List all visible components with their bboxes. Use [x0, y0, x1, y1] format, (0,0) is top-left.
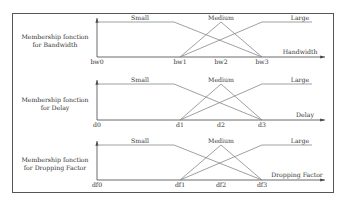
set-label-large: Large — [280, 137, 320, 145]
tick-3: d3 — [252, 121, 272, 129]
title-line-2: for Bandwidth — [15, 41, 95, 49]
set-label-small: Small — [120, 14, 160, 22]
panel-title-bandwidth: Membership fonction for Bandwidth — [15, 33, 95, 49]
tick-2: bw2 — [211, 58, 231, 66]
panel-title-delay: Membership fonction for Delay — [15, 96, 95, 112]
title-line-2: for Delay — [15, 104, 95, 112]
set-label-small: Small — [120, 76, 160, 84]
panel-title-dropping-factor: Membership fonction for Dropping Factor — [15, 156, 95, 172]
small-curve — [97, 22, 262, 57]
tick-1: df1 — [170, 181, 190, 189]
title-line-2: for Dropping Factor — [15, 164, 95, 172]
tick-0: d0 — [87, 121, 107, 129]
tick-2: df2 — [211, 181, 231, 189]
tick-2: d2 — [211, 121, 231, 129]
set-label-medium: Medium — [201, 137, 241, 145]
title-line-1: Membership fonction — [15, 156, 95, 164]
small-curve — [97, 84, 262, 120]
tick-3: bw3 — [252, 58, 272, 66]
set-label-large: Large — [280, 76, 320, 84]
tick-0: bw0 — [87, 58, 107, 66]
title-line-1: Membership fonction — [15, 33, 95, 41]
set-label-large: Large — [280, 14, 320, 22]
set-label-medium: Medium — [201, 14, 241, 22]
tick-1: d1 — [170, 121, 190, 129]
set-label-medium: Medium — [201, 76, 241, 84]
axis-label: Dropping Factor — [262, 171, 332, 179]
tick-1: bw1 — [170, 58, 190, 66]
tick-3: df3 — [252, 181, 272, 189]
title-line-1: Membership fonction — [15, 96, 95, 104]
axis-label: Delay — [280, 111, 330, 119]
tick-0: df0 — [87, 181, 107, 189]
set-label-small: Small — [120, 137, 160, 145]
small-curve — [97, 145, 262, 180]
axis-label: Handwidth — [270, 48, 330, 56]
